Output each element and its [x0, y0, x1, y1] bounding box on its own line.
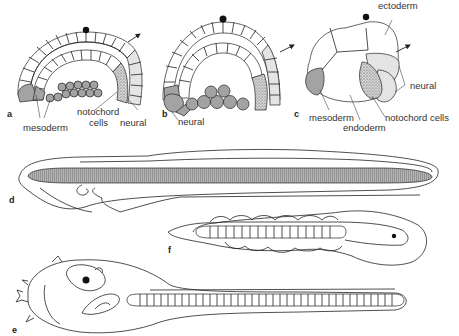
panel-b: b neural [162, 16, 294, 128]
label-cells-a: cells [89, 117, 108, 128]
pole-dot-icon [220, 16, 227, 23]
embryo-diagram: a mesoderm notochord cells neural [0, 0, 459, 336]
panel-label-f: f [168, 245, 172, 255]
pole-dot-icon [83, 27, 89, 33]
panel-label-c: c [294, 109, 299, 119]
panel-c: c ectoderm neural mesoderm endoderm noto… [294, 0, 449, 133]
label-notochord-a: notochord [77, 106, 119, 117]
label-neural-c: neural [410, 80, 436, 91]
panel-label-b: b [162, 109, 168, 119]
panel-label-e: e [12, 325, 17, 335]
panel-f: f [168, 211, 427, 265]
eye-spot-icon [392, 234, 396, 238]
panel-e: e [12, 256, 406, 335]
label-notochord-cells-c: notochord cells [385, 112, 449, 123]
panel-a: a mesoderm notochord cells neural [7, 27, 146, 133]
arrow-icon [280, 45, 294, 52]
label-endoderm-c: endoderm [343, 122, 386, 133]
arrow-icon [128, 34, 140, 42]
pole-dot-icon [363, 14, 369, 20]
label-mesoderm-a: mesoderm [23, 122, 68, 133]
panel-label-d: d [9, 195, 15, 205]
eye-spot-icon [83, 277, 90, 284]
label-ectoderm-c: ectoderm [378, 0, 418, 11]
label-neural-a: neural [120, 117, 146, 128]
panel-d: d [9, 149, 438, 212]
panel-label-a: a [7, 109, 13, 119]
label-neural-b: neural [178, 116, 204, 127]
